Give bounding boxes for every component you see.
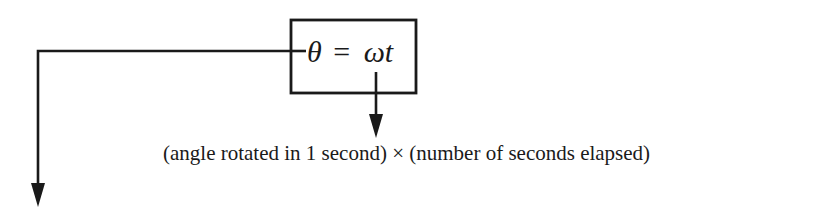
left-connector-line — [38, 51, 306, 190]
left-arrowhead-icon — [31, 183, 45, 207]
equation-text: θ = ωt — [307, 35, 394, 68]
equation-rhs: ωt — [364, 35, 394, 68]
equation-lhs: θ — [307, 35, 322, 68]
equation-diagram: θ = ωt (angle rotated in 1 second) × (nu… — [0, 0, 825, 212]
inner-arrowhead-icon — [369, 114, 383, 138]
annotation-caption: (angle rotated in 1 second) × (number of… — [163, 141, 650, 165]
equation-operator: = — [333, 35, 350, 68]
